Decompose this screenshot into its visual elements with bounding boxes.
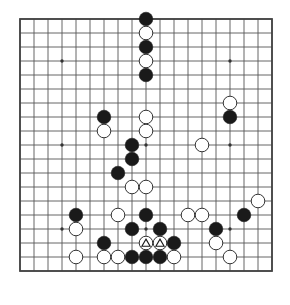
black-stone[interactable] [237, 208, 251, 222]
white-stone-disc [125, 180, 139, 194]
black-stone-disc [139, 68, 153, 82]
white-stone-disc [251, 194, 265, 208]
white-stone-disc [195, 208, 209, 222]
white-stone-disc [139, 180, 153, 194]
star-point [60, 227, 63, 230]
white-stone[interactable] [139, 54, 153, 68]
black-stone[interactable] [223, 110, 237, 124]
white-stone-disc [181, 208, 195, 222]
black-stone[interactable] [97, 236, 111, 250]
black-stone[interactable] [209, 222, 223, 236]
white-stone-disc [139, 54, 153, 68]
black-stone[interactable] [125, 222, 139, 236]
white-stone[interactable] [111, 250, 125, 264]
white-stone[interactable] [97, 124, 111, 138]
black-stone-disc [97, 236, 111, 250]
black-stone[interactable] [153, 222, 167, 236]
white-stone-disc [139, 110, 153, 124]
black-stone[interactable] [139, 68, 153, 82]
white-stone[interactable] [195, 138, 209, 152]
black-stone[interactable] [139, 208, 153, 222]
black-stone-disc [125, 152, 139, 166]
white-stone-disc [209, 236, 223, 250]
star-point [228, 143, 231, 146]
white-stone-triangle-marked[interactable] [139, 236, 153, 250]
white-stone-disc [69, 222, 83, 236]
black-stone-disc [153, 250, 167, 264]
star-point [144, 143, 147, 146]
white-stone[interactable] [97, 250, 111, 264]
black-stone-disc [153, 222, 167, 236]
star-point [144, 227, 147, 230]
white-stone[interactable] [139, 26, 153, 40]
black-stone-disc [139, 40, 153, 54]
black-stone[interactable] [125, 138, 139, 152]
white-stone[interactable] [111, 208, 125, 222]
white-stone[interactable] [209, 236, 223, 250]
white-stone[interactable] [181, 208, 195, 222]
black-stone-disc [125, 250, 139, 264]
white-stone[interactable] [251, 194, 265, 208]
white-stone[interactable] [125, 180, 139, 194]
black-stone[interactable] [167, 236, 181, 250]
black-stone-disc [139, 250, 153, 264]
black-stone[interactable] [97, 110, 111, 124]
star-point [60, 143, 63, 146]
black-stone-disc [209, 222, 223, 236]
white-stone-disc [139, 26, 153, 40]
black-stone[interactable] [69, 208, 83, 222]
white-stone[interactable] [139, 124, 153, 138]
white-stone-disc [69, 250, 83, 264]
white-stone[interactable] [167, 250, 181, 264]
white-stone-disc [223, 96, 237, 110]
go-board-diagram: Go board position 24 22 2 19 [0, 0, 290, 305]
black-stone-disc [223, 110, 237, 124]
white-stone[interactable] [139, 180, 153, 194]
black-stone[interactable] [111, 166, 125, 180]
black-stone[interactable] [139, 12, 153, 26]
black-stone-disc [69, 208, 83, 222]
white-stone-disc [195, 138, 209, 152]
black-stone-disc [167, 236, 181, 250]
black-stone[interactable] [153, 250, 167, 264]
white-stone-disc [111, 250, 125, 264]
white-stone[interactable] [139, 110, 153, 124]
black-stone[interactable] [139, 250, 153, 264]
black-stone-disc [139, 208, 153, 222]
white-stone-disc [167, 250, 181, 264]
star-point [228, 59, 231, 62]
black-stone-disc [237, 208, 251, 222]
white-stone[interactable] [223, 250, 237, 264]
star-point [60, 59, 63, 62]
white-stone-disc [97, 250, 111, 264]
black-stone-disc [125, 138, 139, 152]
black-stone-disc [139, 12, 153, 26]
white-stone[interactable] [69, 250, 83, 264]
white-stone[interactable] [69, 222, 83, 236]
black-stone[interactable] [139, 40, 153, 54]
black-stone-disc [125, 222, 139, 236]
black-stone[interactable] [125, 250, 139, 264]
black-stone-disc [111, 166, 125, 180]
white-stone[interactable] [223, 96, 237, 110]
go-board-svg[interactable] [0, 0, 290, 305]
white-stone-disc [97, 124, 111, 138]
black-stone-disc [97, 110, 111, 124]
white-stone-disc [111, 208, 125, 222]
star-point [228, 227, 231, 230]
white-stone[interactable] [195, 208, 209, 222]
white-stone-disc [139, 124, 153, 138]
white-stone-disc [223, 250, 237, 264]
black-stone[interactable] [125, 152, 139, 166]
white-stone-triangle-marked[interactable] [153, 236, 167, 250]
